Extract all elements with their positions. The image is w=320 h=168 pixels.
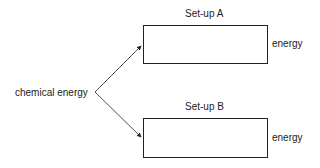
chemical-energy-label: chemical energy xyxy=(15,87,88,99)
setup-b-energy-label: energy xyxy=(272,132,303,144)
setup-a-title: Set-up A xyxy=(185,8,223,20)
arrow-to-setup-b xyxy=(95,92,141,137)
setup-a-box xyxy=(143,25,268,64)
setup-b-box xyxy=(143,118,268,158)
setup-b-title: Set-up B xyxy=(185,101,224,113)
setup-a-energy-label: energy xyxy=(272,38,303,50)
arrow-to-setup-a xyxy=(95,46,141,92)
